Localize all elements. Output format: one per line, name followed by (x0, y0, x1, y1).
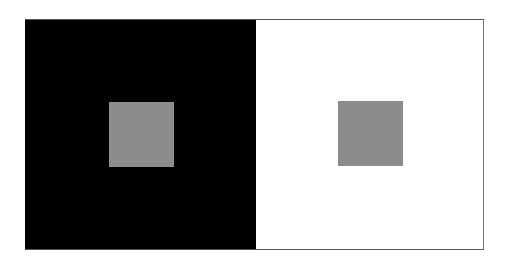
gray-square-on-white (338, 101, 403, 166)
gray-square-on-black (109, 102, 174, 167)
figure-frame (25, 19, 484, 250)
